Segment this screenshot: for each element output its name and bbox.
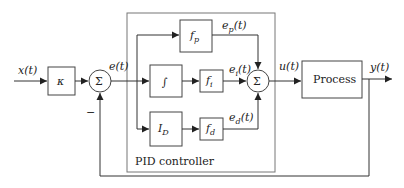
ep-signal-label: ep(t) (222, 19, 247, 34)
control-signal-label: u(t) (279, 60, 299, 73)
gain-symbol: κ (56, 75, 65, 88)
pid-block-diagram: PID controller x(t) κ Σ e(t) − fp ep(t) … (0, 0, 404, 188)
sum1-symbol: Σ (95, 75, 103, 88)
process-label: Process (313, 73, 357, 86)
ed-signal-label: ed(t) (229, 111, 254, 126)
integrator-symbol: ∫ (162, 76, 168, 89)
feedback-minus-sign: − (86, 106, 95, 119)
input-signal-label: x(t) (18, 64, 37, 77)
pid-controller-label: PID controller (135, 155, 215, 168)
error-signal-label: e(t) (109, 60, 129, 73)
sum2-symbol: Σ (253, 75, 261, 88)
output-signal-label: y(t) (369, 61, 389, 74)
